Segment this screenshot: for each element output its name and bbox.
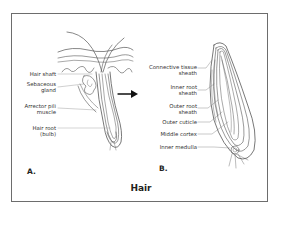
label-inner-root-sheath: Inner rootsheath <box>171 84 197 96</box>
hair-strand <box>101 45 112 72</box>
label-hair-shaft: Hair shaft <box>30 71 56 77</box>
dermis-edge <box>108 66 132 73</box>
follicle-diagram <box>58 32 133 150</box>
panel-b-label: B. <box>159 164 168 173</box>
hair-strand <box>103 38 124 72</box>
label-inner-medulla: Inner medulla <box>160 144 197 150</box>
skin-layer <box>58 55 133 58</box>
panel-a-label: A. <box>27 167 36 176</box>
root-fibers <box>229 154 248 168</box>
label-middle-cortex: Middle cortex <box>160 131 197 137</box>
hair-strand <box>67 32 102 72</box>
label-hair-root: Hair root(bulb) <box>32 125 56 137</box>
label-sebaceous-gland: Sebaceousgland <box>27 81 56 93</box>
skin-layer <box>58 60 133 63</box>
arrector-pili <box>78 86 96 112</box>
leader-line <box>198 60 212 68</box>
leader-line <box>58 84 84 87</box>
label-connective-tissue-sheath: Connective tissuesheath <box>149 64 197 76</box>
leader-line <box>58 108 96 110</box>
papilla <box>231 146 239 154</box>
sebaceous-gland <box>87 80 92 87</box>
hair-layers-diagram <box>198 43 255 168</box>
label-arrector-pili: Arrector pilimuscle <box>25 103 56 115</box>
dermis-edge <box>62 66 94 72</box>
skin-layer <box>58 47 133 52</box>
inner-medulla <box>222 60 231 132</box>
label-outer-cuticle: Outer cuticle <box>162 119 197 125</box>
right-arrow-icon <box>118 90 138 98</box>
leader-line <box>198 147 230 148</box>
label-outer-root-sheath: Outer rootsheath <box>169 103 197 115</box>
figure-caption: Hair <box>0 183 282 193</box>
sebaceous-gland <box>82 76 96 95</box>
outer-cuticle <box>220 51 239 140</box>
